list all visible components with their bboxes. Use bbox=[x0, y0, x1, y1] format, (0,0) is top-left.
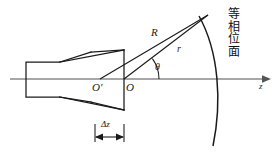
label-o: O bbox=[126, 82, 134, 93]
delta-z-arrowhead-right bbox=[116, 134, 124, 141]
label-theta: θ bbox=[155, 62, 160, 72]
ray-R-line bbox=[100, 15, 208, 79]
delta-z-arrowhead-left bbox=[95, 134, 103, 141]
horn-outline bbox=[60, 50, 124, 110]
ray-r-line bbox=[124, 15, 208, 79]
equiphase-surface-arc bbox=[199, 16, 218, 146]
label-ray-r: r bbox=[177, 44, 181, 54]
label-z-axis: z bbox=[259, 82, 263, 91]
z-axis-arrowhead bbox=[262, 75, 271, 83]
z-axis-group bbox=[10, 75, 271, 83]
figure-canvas: O' O R r θ z Δz 等 相 位 面 bbox=[0, 0, 279, 152]
annotation-char-3: 位 bbox=[228, 33, 240, 46]
horn-lower-throat-step bbox=[60, 97, 91, 102]
label-delta-z: Δz bbox=[101, 120, 110, 129]
annotation-char-4: 面 bbox=[228, 46, 240, 59]
horn-lower-flare-edge bbox=[91, 102, 124, 110]
label-o-prime: O' bbox=[92, 82, 102, 93]
label-ray-R: R bbox=[151, 27, 158, 38]
equiphase-surface-annotation: 等 相 位 面 bbox=[228, 8, 240, 58]
annotation-char-1: 等 bbox=[228, 8, 240, 21]
